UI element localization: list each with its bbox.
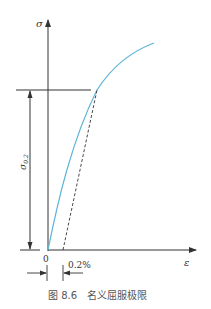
offset-label: 0.2%: [68, 260, 91, 270]
figure-caption: 图 8.6 名义屈服极限: [48, 289, 147, 301]
yield-arrowhead-bottom: [28, 242, 33, 250]
offset-dashed-line: [63, 90, 97, 250]
sigma-axis-label: σ: [36, 18, 44, 29]
origin-label: 0: [43, 254, 49, 264]
yield-arrowhead-top: [28, 90, 33, 98]
nominal-yield-limit-diagram: σ ε σ0.2 0 0.2% 图 8.6 名义屈服极限: [0, 0, 211, 309]
offset-arrow-left-head: [40, 271, 47, 276]
stress-strain-curve: [48, 43, 154, 250]
yield-stress-label: σ0.2: [18, 154, 29, 170]
offset-arrow-right-head: [63, 271, 70, 276]
epsilon-axis-label: ε: [184, 257, 189, 268]
